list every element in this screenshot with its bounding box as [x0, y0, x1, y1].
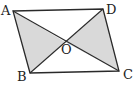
geometry-figure: A D B C O [0, 0, 136, 90]
intersection-label-o: O [61, 42, 72, 57]
vertex-label-c: C [123, 67, 133, 82]
vertex-label-b: B [17, 69, 27, 84]
vertex-label-d: D [106, 2, 116, 17]
shaded-triangle-aob [13, 11, 65, 73]
vertex-label-a: A [0, 3, 11, 18]
